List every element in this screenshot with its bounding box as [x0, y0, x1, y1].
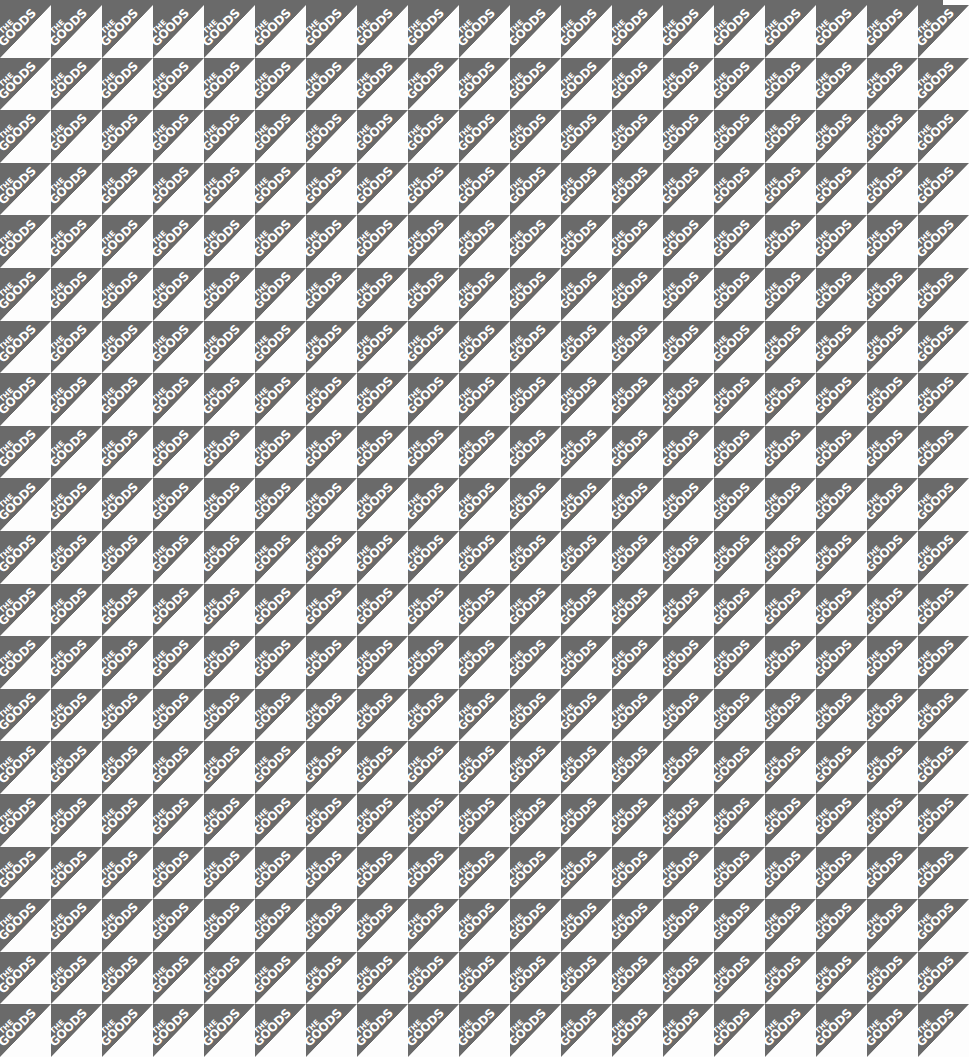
logo-tile: THE GOODS	[663, 794, 714, 847]
logo-text-goods: GOODS	[408, 5, 450, 54]
logo-text: THE GOODS	[510, 636, 552, 685]
logo-text: THE GOODS	[357, 268, 399, 317]
logo-text-goods: GOODS	[765, 426, 807, 475]
logo-tile: THE GOODS	[51, 531, 102, 584]
logo-text: THE GOODS	[357, 215, 399, 264]
logo-text: THE GOODS	[102, 373, 144, 422]
logo-text-goods: GOODS	[102, 5, 144, 54]
logo-text: THE GOODS	[816, 741, 858, 790]
logo-text: THE GOODS	[255, 5, 297, 54]
logo-text-goods: GOODS	[867, 373, 909, 422]
logo-tile: THE GOODS	[204, 636, 255, 689]
logo-text: THE GOODS	[102, 952, 144, 1001]
logo-text: THE GOODS	[867, 373, 909, 422]
logo-text: THE GOODS	[714, 794, 756, 843]
logo-text: THE GOODS	[663, 636, 705, 685]
logo-text-goods: GOODS	[0, 689, 42, 738]
logo-text: THE GOODS	[153, 741, 195, 790]
logo-text-goods: GOODS	[306, 899, 348, 948]
logo-text-goods: GOODS	[0, 268, 42, 317]
logo-tile: THE GOODS	[357, 899, 408, 952]
logo-text-goods: GOODS	[408, 110, 450, 159]
logo-text: THE GOODS	[510, 321, 552, 370]
logo-tile: THE GOODS	[816, 58, 867, 111]
logo-text: THE GOODS	[102, 847, 144, 896]
logo-text: THE GOODS	[714, 163, 756, 212]
logo-text-goods: GOODS	[357, 794, 399, 843]
logo-tile: THE GOODS	[51, 373, 102, 426]
logo-text-goods: GOODS	[918, 373, 960, 422]
logo-text: THE GOODS	[561, 794, 603, 843]
logo-tile: THE GOODS	[459, 215, 510, 268]
logo-text: THE GOODS	[153, 794, 195, 843]
logo-text-goods: GOODS	[714, 899, 756, 948]
logo-tile: THE GOODS	[867, 531, 918, 584]
logo-text: THE GOODS	[663, 741, 705, 790]
logo-text: THE GOODS	[714, 899, 756, 948]
logo-text: THE GOODS	[102, 899, 144, 948]
logo-tile: THE GOODS	[918, 899, 969, 952]
logo-tile: THE GOODS	[102, 5, 153, 58]
logo-text: THE GOODS	[255, 426, 297, 475]
logo-tile: THE GOODS	[357, 163, 408, 216]
logo-tile: THE GOODS	[561, 899, 612, 952]
logo-tile: THE GOODS	[153, 215, 204, 268]
logo-text: THE GOODS	[663, 847, 705, 896]
logo-text: THE GOODS	[306, 426, 348, 475]
logo-text-goods: GOODS	[663, 110, 705, 159]
logo-tile: THE GOODS	[306, 689, 357, 742]
logo-text: THE GOODS	[459, 1004, 501, 1053]
logo-text-goods: GOODS	[918, 794, 960, 843]
logo-text: THE GOODS	[816, 794, 858, 843]
logo-text: THE GOODS	[663, 1004, 705, 1053]
logo-text-goods: GOODS	[561, 373, 603, 422]
logo-text: THE GOODS	[561, 584, 603, 633]
logo-pattern-grid: THE GOODS THE GOODS THE GOODS THE GOODS …	[0, 5, 970, 1057]
logo-tile: THE GOODS	[102, 847, 153, 900]
logo-text: THE GOODS	[714, 847, 756, 896]
logo-text: THE GOODS	[408, 268, 450, 317]
logo-tile: THE GOODS	[51, 1004, 102, 1057]
logo-text: THE GOODS	[459, 478, 501, 527]
logo-tile: THE GOODS	[561, 1004, 612, 1057]
logo-tile: THE GOODS	[765, 110, 816, 163]
logo-text: THE GOODS	[918, 268, 960, 317]
logo-text: THE GOODS	[510, 268, 552, 317]
logo-tile: THE GOODS	[357, 110, 408, 163]
logo-text: THE GOODS	[663, 5, 705, 54]
logo-text: THE GOODS	[357, 478, 399, 527]
logo-tile: THE GOODS	[612, 531, 663, 584]
logo-tile: THE GOODS	[867, 321, 918, 374]
logo-text: THE GOODS	[561, 110, 603, 159]
logo-text-goods: GOODS	[306, 268, 348, 317]
logo-tile: THE GOODS	[459, 689, 510, 742]
logo-tile: THE GOODS	[612, 5, 663, 58]
logo-tile: THE GOODS	[816, 794, 867, 847]
logo-tile: THE GOODS	[510, 636, 561, 689]
logo-tile: THE GOODS	[306, 215, 357, 268]
logo-text-goods: GOODS	[765, 163, 807, 212]
logo-text: THE GOODS	[714, 58, 756, 107]
logo-tile: THE GOODS	[306, 899, 357, 952]
logo-text: THE GOODS	[306, 847, 348, 896]
logo-text-goods: GOODS	[0, 952, 42, 1001]
logo-text: THE GOODS	[918, 321, 960, 370]
logo-text: THE GOODS	[765, 163, 807, 212]
logo-text: THE GOODS	[612, 426, 654, 475]
logo-text-goods: GOODS	[918, 899, 960, 948]
logo-text: THE GOODS	[816, 321, 858, 370]
logo-text: THE GOODS	[663, 426, 705, 475]
logo-tile: THE GOODS	[408, 794, 459, 847]
logo-text: THE GOODS	[816, 1004, 858, 1053]
logo-text: THE GOODS	[816, 584, 858, 633]
logo-text: THE GOODS	[204, 321, 246, 370]
logo-text-goods: GOODS	[510, 531, 552, 580]
logo-tile: THE GOODS	[816, 163, 867, 216]
logo-text: THE GOODS	[510, 584, 552, 633]
logo-tile: THE GOODS	[867, 741, 918, 794]
logo-text: THE GOODS	[867, 1004, 909, 1053]
logo-tile: THE GOODS	[663, 952, 714, 1005]
logo-text: THE GOODS	[765, 478, 807, 527]
logo-tile: THE GOODS	[0, 741, 51, 794]
logo-text: THE GOODS	[255, 584, 297, 633]
